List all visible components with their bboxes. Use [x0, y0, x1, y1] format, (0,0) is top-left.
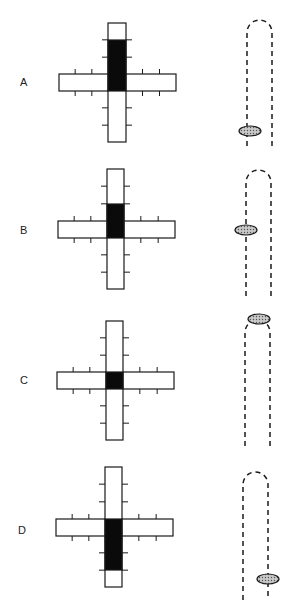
- panel-a: [59, 20, 272, 146]
- panel-b: [58, 169, 271, 296]
- filled-region: [106, 372, 123, 389]
- cross-diagram: [56, 467, 173, 587]
- ellipse-marker: [239, 126, 261, 136]
- panel-label: A: [20, 76, 27, 88]
- panel-c: [57, 314, 270, 446]
- ellipse-marker: [248, 314, 270, 324]
- ellipse-marker: [235, 225, 257, 235]
- cross-diagram: [57, 321, 174, 440]
- dashed-tube: [245, 320, 270, 446]
- ellipse-marker: [257, 574, 279, 584]
- diagram-canvas: [0, 0, 295, 609]
- panel-label: B: [20, 224, 27, 236]
- filled-region: [108, 40, 126, 91]
- panel-label: C: [20, 374, 28, 386]
- cross-diagram: [58, 169, 175, 289]
- filled-region: [105, 519, 122, 570]
- filled-region: [107, 204, 124, 238]
- panel-d: [56, 467, 279, 600]
- panel-label: D: [18, 524, 26, 536]
- cross-diagram: [59, 23, 176, 142]
